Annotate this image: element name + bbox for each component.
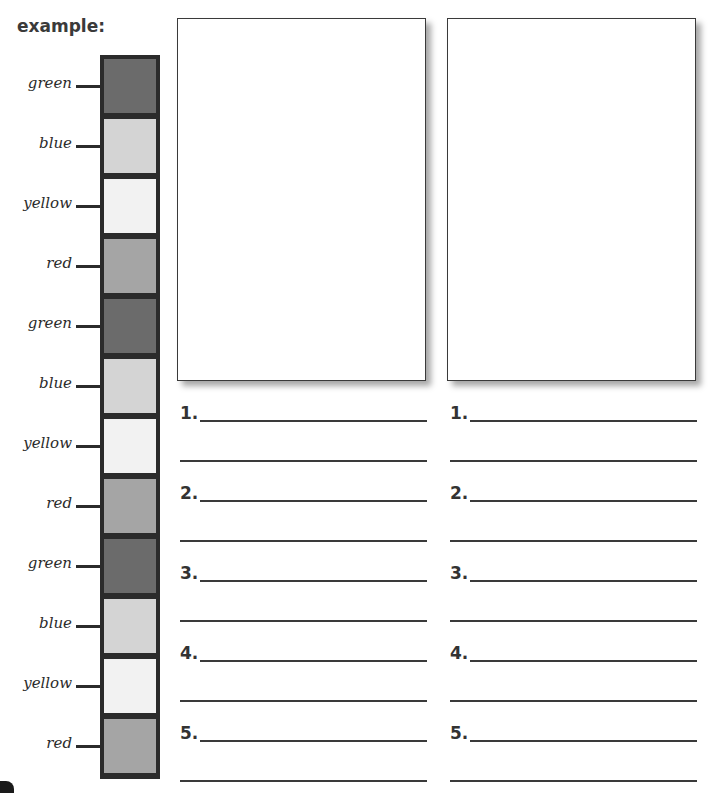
answer-number: 3.	[450, 563, 468, 583]
color-label: red	[2, 734, 72, 752]
answer-line[interactable]	[470, 580, 697, 582]
color-label: blue	[2, 134, 72, 152]
color-cell-yellow	[104, 419, 156, 473]
color-label: yellow	[2, 674, 72, 692]
answer-line[interactable]	[450, 700, 697, 702]
color-cell-red	[104, 719, 156, 773]
drawing-box-left[interactable]	[177, 18, 426, 381]
color-cell-red	[104, 479, 156, 533]
color-label: green	[2, 314, 72, 332]
color-label: green	[2, 74, 72, 92]
answer-line[interactable]	[180, 620, 427, 622]
answer-number: 3.	[180, 563, 198, 583]
color-label: red	[2, 494, 72, 512]
color-cell-green	[104, 59, 156, 113]
color-label: blue	[2, 374, 72, 392]
answer-line[interactable]	[470, 660, 697, 662]
answer-number: 4.	[180, 643, 198, 663]
color-cell-green	[104, 539, 156, 593]
answer-line[interactable]	[450, 540, 697, 542]
answer-line[interactable]	[450, 620, 697, 622]
answer-number: 5.	[180, 723, 198, 743]
color-cell-blue	[104, 359, 156, 413]
color-column	[100, 55, 160, 779]
drawing-box-right[interactable]	[447, 18, 696, 381]
color-cell-blue	[104, 119, 156, 173]
answer-line[interactable]	[180, 540, 427, 542]
color-label: blue	[2, 614, 72, 632]
answer-line[interactable]	[470, 420, 697, 422]
color-label: green	[2, 554, 72, 572]
answer-line[interactable]	[180, 460, 427, 462]
answer-number: 1.	[450, 403, 468, 423]
answer-number: 4.	[450, 643, 468, 663]
answer-line[interactable]	[180, 700, 427, 702]
answer-line[interactable]	[470, 740, 697, 742]
color-label: yellow	[2, 434, 72, 452]
answer-number: 5.	[450, 723, 468, 743]
answer-line[interactable]	[180, 780, 427, 782]
color-cell-red	[104, 239, 156, 293]
answer-line[interactable]	[200, 420, 427, 422]
color-cell-green	[104, 299, 156, 353]
color-label: yellow	[2, 194, 72, 212]
answer-number: 2.	[180, 483, 198, 503]
answer-line[interactable]	[200, 660, 427, 662]
color-cell-yellow	[104, 659, 156, 713]
answer-line[interactable]	[200, 580, 427, 582]
answer-line[interactable]	[450, 460, 697, 462]
color-label: red	[2, 254, 72, 272]
answer-number: 2.	[450, 483, 468, 503]
answer-line[interactable]	[200, 740, 427, 742]
answer-line[interactable]	[200, 500, 427, 502]
answer-number: 1.	[180, 403, 198, 423]
answer-line[interactable]	[450, 780, 697, 782]
color-cell-blue	[104, 599, 156, 653]
color-cell-yellow	[104, 179, 156, 233]
answer-line[interactable]	[470, 500, 697, 502]
example-title: example:	[17, 16, 105, 36]
corner-tab	[0, 781, 14, 793]
